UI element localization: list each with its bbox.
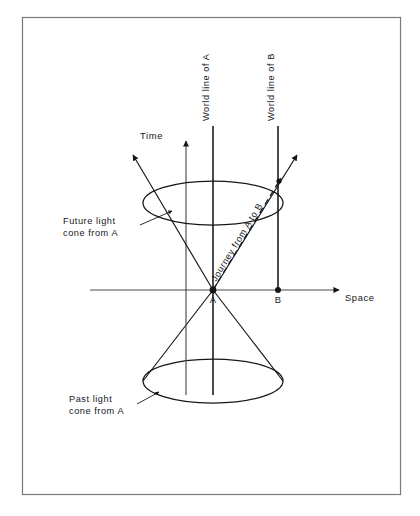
figure-border bbox=[23, 18, 401, 495]
past-cone-label-line1: Past light bbox=[69, 394, 112, 404]
world-line-a-label: World line of A bbox=[201, 53, 211, 121]
world-line-b-label: World line of B bbox=[266, 53, 276, 121]
event-label-b: B bbox=[275, 294, 282, 305]
time-axis-label: Time bbox=[140, 130, 163, 141]
event-point-b bbox=[275, 287, 281, 293]
event-label-a: A bbox=[210, 294, 217, 305]
figure-root: Time Space A B World line of A World lin… bbox=[0, 0, 420, 516]
space-axis-label: Space bbox=[345, 292, 375, 303]
past-cone-label-line2: cone from A bbox=[69, 406, 124, 416]
spacetime-diagram: Time Space A B World line of A World lin… bbox=[0, 0, 420, 516]
future-cone-label-line2: cone from A bbox=[63, 228, 118, 238]
journey-endpoint-marker bbox=[276, 178, 281, 183]
event-point-a bbox=[210, 287, 217, 294]
future-cone-label-line1: Future light bbox=[63, 216, 116, 226]
